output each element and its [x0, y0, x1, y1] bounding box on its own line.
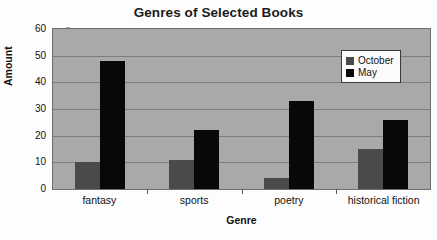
bar-group [147, 29, 241, 189]
y-axis-tick: 50 [18, 49, 46, 60]
bar-may-fantasy[interactable] [100, 61, 125, 189]
chart-legend: OctoberMay [341, 50, 401, 83]
bar-chart: Genres of Selected Books Amount 01020304… [0, 0, 437, 240]
legend-entry[interactable]: May [346, 67, 394, 78]
y-axis-label: Amount [2, 46, 14, 86]
bar-october-poetry[interactable] [264, 178, 289, 189]
legend-swatch-icon [346, 57, 354, 65]
y-axis-tick: 20 [18, 129, 46, 140]
bar-group [53, 29, 147, 189]
x-axis-tick: poetry [242, 194, 337, 206]
legend-entry[interactable]: October [346, 55, 394, 66]
x-axis-label: Genre [52, 214, 431, 226]
y-axis-tick: 0 [18, 183, 46, 194]
bar-group [242, 29, 336, 189]
x-axis-tick-labels: fantasysportspoetryhistorical fiction [52, 194, 431, 206]
legend-swatch-icon [346, 69, 354, 77]
bar-october-sports[interactable] [169, 160, 194, 189]
x-axis-tick: sports [147, 194, 242, 206]
y-axis-tick: 40 [18, 76, 46, 87]
x-axis-tick: fantasy [52, 194, 147, 206]
bar-may-poetry[interactable] [289, 101, 314, 189]
y-axis-tick: 30 [18, 103, 46, 114]
bar-october-fantasy[interactable] [75, 162, 100, 189]
bar-may-sports[interactable] [194, 130, 219, 189]
y-axis-tick: 60 [18, 23, 46, 34]
y-axis-tick-labels: 0102030405060 [18, 28, 46, 188]
legend-label: May [358, 67, 377, 78]
bar-october-historical-fiction[interactable] [358, 149, 383, 189]
x-axis-tick: historical fiction [336, 194, 431, 206]
chart-title: Genres of Selected Books [0, 5, 437, 20]
legend-label: October [358, 55, 394, 66]
y-axis-tick: 10 [18, 156, 46, 167]
bar-may-historical-fiction[interactable] [383, 120, 408, 189]
